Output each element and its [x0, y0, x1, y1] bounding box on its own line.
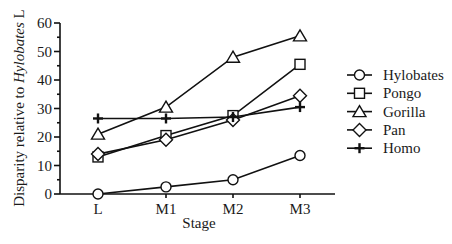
series-hylobates	[93, 151, 305, 199]
square-marker-icon	[355, 88, 365, 98]
y-tick-label: 0	[45, 186, 53, 202]
y-axis-title: Disparity relative to Hylobates L	[11, 9, 27, 206]
series-line	[98, 64, 300, 157]
legend-item-pongo: Pongo	[347, 85, 421, 101]
x-tick-label: L	[93, 201, 102, 217]
triangle-marker-icon	[294, 30, 307, 41]
legend-item-pan: Pan	[347, 122, 406, 138]
legend-item-homo: Homo	[347, 140, 421, 156]
x-tick-label: M1	[156, 201, 177, 217]
y-tick-label: 40	[37, 72, 52, 88]
y-tick-label: 50	[37, 44, 52, 60]
circle-marker-icon	[93, 189, 103, 199]
series-line	[98, 107, 300, 118]
legend-label: Hylobates	[383, 67, 444, 83]
series-line	[98, 36, 300, 134]
legend-label: Pan	[383, 122, 406, 138]
circle-marker-icon	[295, 151, 305, 161]
triangle-marker-icon	[227, 51, 240, 62]
data-series	[92, 30, 307, 199]
y-axis-title-suffix: L	[11, 9, 27, 22]
plus-marker-icon	[93, 113, 103, 123]
legend-label: Homo	[383, 140, 421, 156]
diamond-marker-icon	[294, 89, 307, 102]
plus-marker-icon	[355, 143, 365, 153]
plus-marker-icon	[161, 113, 171, 123]
y-tick-label: 30	[37, 101, 52, 117]
line-chart: 0102030405060 LM1M2M3 HylobatesPongoGori…	[0, 0, 452, 244]
legend-item-hylobates: Hylobates	[347, 67, 444, 83]
x-tick-label: M2	[223, 201, 244, 217]
legend-label: Gorilla	[383, 104, 426, 120]
circle-marker-icon	[355, 70, 365, 80]
y-axis-title-italic: Hylobates	[11, 22, 27, 84]
legend: HylobatesPongoGorillaPanHomo	[347, 67, 444, 156]
series-pan	[92, 89, 307, 160]
x-tick-label: M3	[290, 201, 311, 217]
series-line	[98, 156, 300, 195]
y-tick-label: 20	[37, 129, 52, 145]
legend-label: Pongo	[383, 85, 421, 101]
triangle-marker-icon	[92, 128, 105, 139]
square-marker-icon	[295, 59, 305, 69]
x-axis-title: Stage	[182, 215, 216, 231]
y-axis-title-prefix: Disparity relative to	[11, 83, 27, 207]
diamond-marker-icon	[353, 123, 366, 136]
circle-marker-icon	[228, 175, 238, 185]
legend-item-gorilla: Gorilla	[347, 104, 426, 120]
circle-marker-icon	[161, 182, 171, 192]
y-tick-label: 10	[37, 158, 52, 174]
y-tick-label: 60	[37, 15, 52, 31]
plus-marker-icon	[295, 102, 305, 112]
series-line	[98, 96, 300, 154]
y-axis: 0102030405060	[37, 15, 60, 202]
